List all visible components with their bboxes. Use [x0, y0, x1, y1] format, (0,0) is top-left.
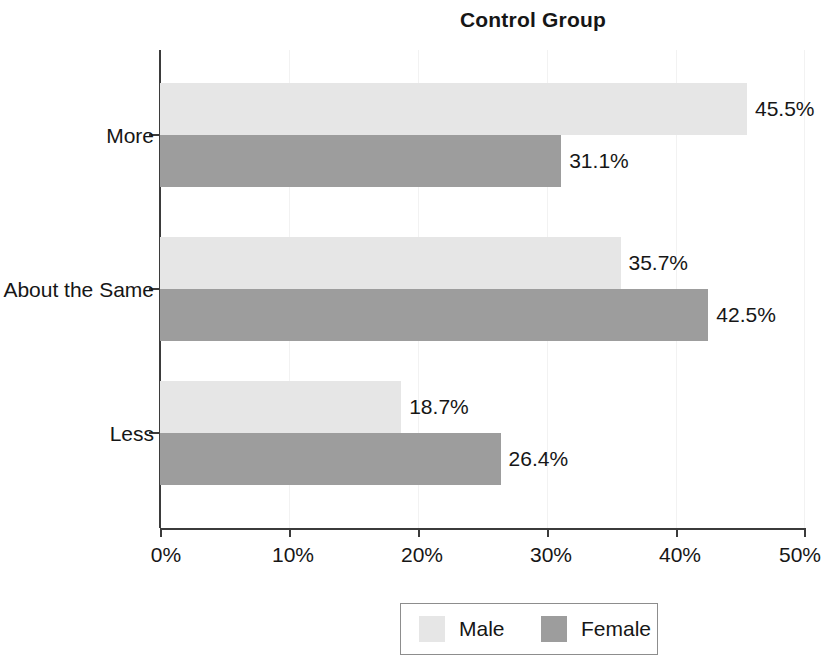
- chart-title: Control Group: [0, 8, 822, 32]
- bar-more-female: [160, 135, 561, 187]
- legend-label-male: Male: [459, 617, 505, 641]
- x-tick-10: [289, 528, 291, 537]
- x-axis-label-40: 40%: [659, 543, 701, 567]
- x-tick-50: [804, 528, 806, 537]
- bar-value-less-male: 18.7%: [409, 395, 469, 419]
- bar-value-more-female: 31.1%: [569, 149, 629, 173]
- x-tick-0: [160, 528, 162, 537]
- x-axis-label-50: 50%: [779, 543, 821, 567]
- legend-swatch-female: [541, 616, 567, 642]
- bar-value-about-the-same-female: 42.5%: [716, 303, 776, 327]
- x-axis-label-30: 30%: [530, 543, 572, 567]
- gridline-50: [804, 50, 805, 528]
- bar-about-the-same-female: [160, 289, 708, 341]
- bar-value-less-female: 26.4%: [509, 447, 569, 471]
- x-axis-label-10: 10%: [272, 543, 314, 567]
- bar-less-male: [160, 381, 401, 433]
- y-axis-label-more: More: [106, 124, 154, 148]
- y-axis-label-less: Less: [110, 422, 154, 446]
- legend-swatch-male: [419, 616, 445, 642]
- plot-area: 45.5% 31.1% 35.7% 42.5% 18.7% 26.4%: [160, 50, 805, 528]
- chart-title-text: Control Group: [460, 8, 606, 32]
- legend-label-female: Female: [581, 617, 651, 641]
- chart-legend: Male Female: [400, 603, 658, 655]
- x-tick-30: [547, 528, 549, 537]
- bar-chart: Control Group 45.5% 31.1% 35.7% 42.5% 18…: [0, 0, 822, 655]
- x-tick-40: [676, 528, 678, 537]
- bar-about-the-same-male: [160, 237, 621, 289]
- bar-more-male: [160, 83, 747, 135]
- x-axis-label-0: 0%: [151, 543, 181, 567]
- x-axis-line: [160, 528, 806, 530]
- bar-less-female: [160, 433, 501, 485]
- legend-entry-female: Female: [541, 616, 651, 642]
- bar-value-about-the-same-male: 35.7%: [629, 251, 689, 275]
- y-axis-label-about-the-same: About the Same: [3, 278, 154, 302]
- x-axis-label-20: 20%: [401, 543, 443, 567]
- x-tick-20: [418, 528, 420, 537]
- legend-entry-male: Male: [419, 616, 505, 642]
- bar-value-more-male: 45.5%: [755, 97, 815, 121]
